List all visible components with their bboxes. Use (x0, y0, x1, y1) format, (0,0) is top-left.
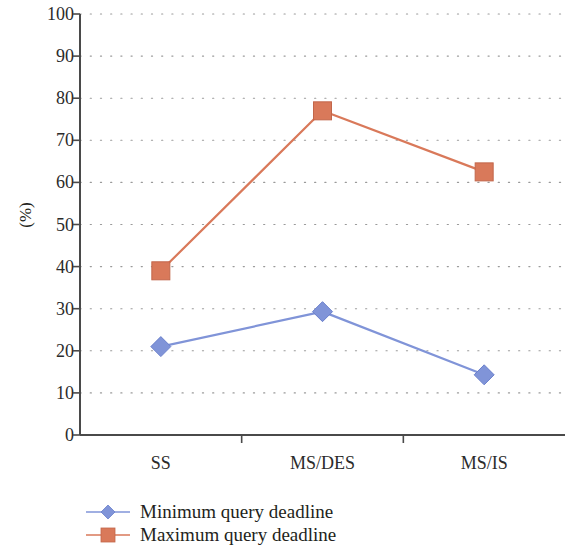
chart-legend: Minimum query deadline Maximum query dea… (86, 500, 506, 546)
data-point-marker (313, 302, 333, 322)
legend-item-maximum: Maximum query deadline (86, 523, 506, 546)
legend-label-minimum: Minimum query deadline (130, 501, 333, 522)
data-point-marker (474, 365, 494, 385)
chart-svg (0, 0, 569, 470)
legend-marker-square-icon (86, 525, 130, 545)
data-point-marker (151, 337, 171, 357)
chart-plot-area: (%) 0102030405060708090100 SSMS/DESMS/IS (0, 0, 569, 470)
data-point-marker (314, 102, 332, 120)
legend-marker-diamond-icon (86, 502, 130, 522)
legend-label-maximum: Maximum query deadline (130, 524, 336, 545)
series-line-2 (161, 111, 484, 271)
data-point-marker (152, 262, 170, 280)
data-point-marker (475, 163, 493, 181)
legend-item-minimum: Minimum query deadline (86, 500, 506, 523)
chart-figure: (%) 0102030405060708090100 SSMS/DESMS/IS… (0, 0, 569, 549)
